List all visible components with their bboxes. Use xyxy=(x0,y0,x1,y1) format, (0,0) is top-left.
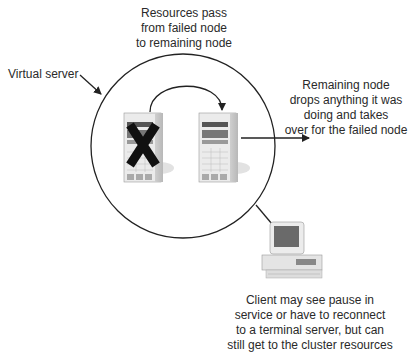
client-computer-icon xyxy=(262,222,322,278)
virtual-server-circle xyxy=(91,54,275,238)
failed-server-icon xyxy=(124,113,174,182)
virtual-server-arrow xyxy=(80,75,101,94)
remaining-node-label: Remaining node drops anything it was doi… xyxy=(278,78,414,138)
virtual-server-label: Virtual server xyxy=(8,67,78,82)
client-connection-line xyxy=(256,205,272,224)
remaining-server-icon xyxy=(199,113,250,182)
resources-pass-label: Resources pass from failed node to remai… xyxy=(124,6,244,51)
failover-arrow xyxy=(150,86,222,112)
client-label: Client may see pause in service or have … xyxy=(210,293,410,353)
